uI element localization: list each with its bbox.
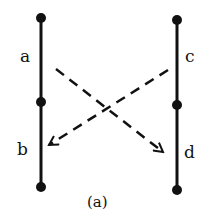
arrow-c-to-b	[49, 70, 168, 145]
arrow-a-to-d	[56, 69, 163, 152]
right-line	[172, 15, 182, 195]
label-b: b	[17, 139, 28, 159]
node-right-bottom	[172, 185, 182, 195]
left-line	[36, 13, 46, 192]
node-right-middle	[172, 100, 182, 110]
node-left-top	[36, 13, 46, 23]
label-a: a	[20, 46, 30, 66]
caption: (a)	[87, 193, 108, 211]
diagram-canvas: a b c d (a)	[0, 0, 212, 223]
node-right-top	[172, 15, 182, 25]
node-left-middle	[36, 97, 46, 107]
label-c: c	[185, 46, 195, 66]
node-left-bottom	[36, 182, 46, 192]
label-d: d	[184, 142, 195, 162]
